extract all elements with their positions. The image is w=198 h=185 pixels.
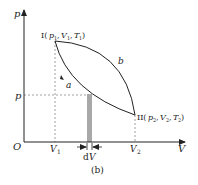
curve-b-label: b [118, 56, 124, 66]
pv-diagram: p V O p V 1 V 2 d V b a I( p 1 , V 1 , T… [0, 0, 198, 185]
v1-tick-label: V 1 [50, 144, 61, 155]
origin-label: O [13, 141, 21, 152]
dv-arrows [77, 143, 102, 150]
svg-text:,: , [70, 31, 73, 40]
curve-a-label: a [66, 80, 71, 90]
curve-b [55, 41, 135, 115]
dv-label: d V [83, 152, 97, 162]
svg-text:): ) [181, 113, 184, 122]
svg-text:I(: I( [41, 31, 47, 40]
x-axis-label: V [178, 143, 187, 154]
svg-text:V: V [89, 152, 97, 162]
p-level-label: p [15, 90, 22, 101]
svg-text:,: , [169, 113, 172, 122]
state1-label: I( p 1 , V 1 , T 1 ) [41, 31, 85, 41]
svg-text:,: , [156, 113, 159, 122]
v2-tick-label: V 2 [130, 144, 141, 155]
svg-text:): ) [82, 31, 85, 40]
dv-shaded-strip [87, 94, 92, 142]
svg-text:,: , [57, 31, 60, 40]
figure-caption: (b) [91, 165, 104, 175]
state2-label: II( p 2 , V 2 , T 2 ) [137, 113, 184, 123]
svg-text:2: 2 [137, 148, 141, 155]
curve-a-direction-arrow-icon [60, 75, 64, 80]
y-axis-label: p [14, 8, 21, 19]
svg-text:II(: II( [137, 113, 146, 122]
svg-text:1: 1 [57, 148, 61, 155]
